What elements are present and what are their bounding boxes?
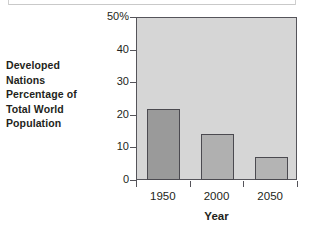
y-axis-caption: Developed Nations Percentage of Total Wo… [6,58,98,131]
y-tick-label-40: 40 [99,44,129,55]
y-tick-label-0: 0 [99,174,129,185]
y-tick-label-10: 10 [99,141,129,152]
bar-1950 [147,109,180,180]
y-tick-mark-30 [130,82,137,83]
y-tick-label-20: 20 [99,109,129,120]
bar-2050 [255,157,288,180]
x-tick-mark-3 [297,181,298,187]
y-tick-label-50: 50% [99,11,129,22]
bar-2000 [201,134,234,180]
scan-artifact-left-edge [8,0,9,5]
y-axis-tick-labels: 50% 40 30 20 10 0 [98,0,129,235]
x-tick-label-2050: 2050 [245,190,295,202]
scan-artifact-top-rule [8,4,296,5]
y-axis-caption-line-1: Developed [6,58,98,73]
y-axis-caption-line-3: Percentage of [6,87,98,102]
plot-area [136,17,297,180]
y-tick-label-30: 30 [99,76,129,87]
y-axis-caption-line-2: Nations [6,73,98,88]
x-tick-mark-0 [136,181,137,187]
y-tick-mark-20 [130,115,137,116]
y-tick-mark-40 [130,50,137,51]
x-tick-label-1950: 1950 [138,190,188,202]
x-tick-mark-2 [243,181,244,187]
x-axis-title: Year [136,210,297,222]
y-axis-caption-line-4: Total World [6,102,98,117]
y-tick-mark-50 [130,17,137,18]
x-tick-mark-1 [190,181,191,187]
x-tick-label-2000: 2000 [192,190,242,202]
scan-artifact-right-edge [295,0,296,5]
y-tick-mark-10 [130,147,137,148]
y-axis-caption-line-5: Population [6,116,98,131]
